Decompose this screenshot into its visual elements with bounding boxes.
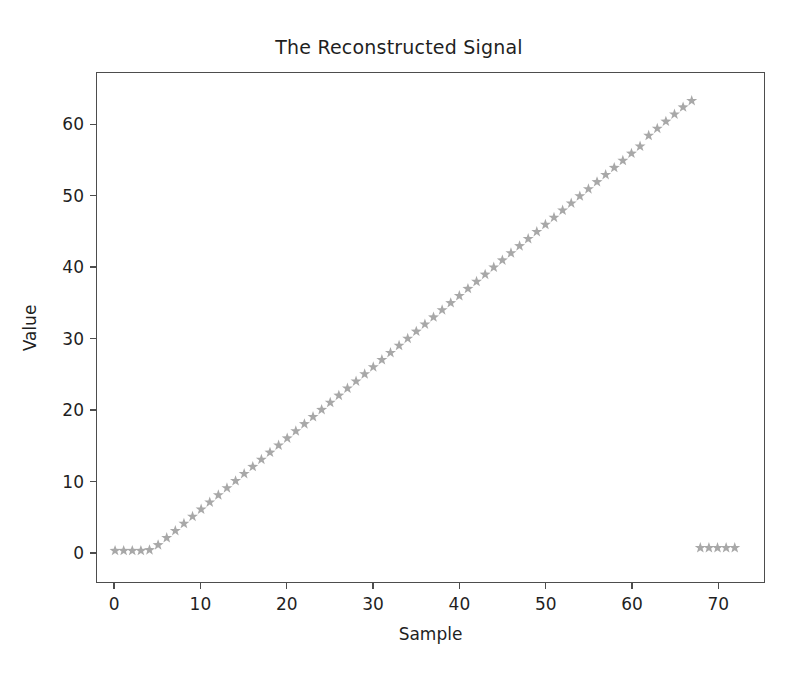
data-point-marker bbox=[462, 283, 473, 293]
data-point-marker bbox=[394, 340, 405, 350]
data-point-marker bbox=[445, 297, 456, 307]
data-point-marker bbox=[505, 247, 516, 257]
data-point-marker bbox=[290, 425, 301, 435]
data-point-marker bbox=[437, 304, 448, 314]
data-point-marker bbox=[600, 169, 611, 179]
data-point-marker bbox=[497, 254, 508, 264]
y-tick-label: 60 bbox=[32, 114, 84, 134]
data-point-marker bbox=[566, 198, 577, 208]
data-point-marker bbox=[669, 109, 680, 119]
data-point-marker bbox=[729, 542, 740, 552]
x-tick-mark bbox=[372, 583, 373, 589]
data-point-marker bbox=[325, 397, 336, 407]
y-tick-mark bbox=[90, 552, 96, 553]
plot-area bbox=[96, 72, 765, 583]
x-tick-label: 30 bbox=[362, 594, 384, 614]
y-tick-label: 0 bbox=[32, 543, 84, 563]
y-tick-mark bbox=[90, 338, 96, 339]
data-point-marker bbox=[351, 375, 362, 385]
y-axis-label: Value bbox=[20, 305, 40, 352]
data-marker-layer bbox=[110, 95, 741, 555]
data-point-marker bbox=[531, 226, 542, 236]
x-tick-label: 20 bbox=[276, 594, 298, 614]
y-tick-label: 50 bbox=[32, 186, 84, 206]
data-point-marker bbox=[686, 95, 697, 105]
figure-canvas: The Reconstructed Signal 010203040506070… bbox=[0, 0, 798, 675]
data-point-marker bbox=[359, 368, 370, 378]
data-point-marker bbox=[299, 418, 310, 428]
data-point-marker bbox=[239, 468, 250, 478]
data-point-marker bbox=[471, 276, 482, 286]
data-point-marker bbox=[480, 269, 491, 279]
data-point-marker bbox=[583, 183, 594, 193]
data-point-marker bbox=[557, 205, 568, 215]
data-point-marker bbox=[230, 475, 241, 485]
data-point-marker bbox=[411, 326, 422, 336]
data-point-marker bbox=[695, 542, 706, 552]
data-point-marker bbox=[428, 311, 439, 321]
data-point-marker bbox=[643, 130, 654, 140]
data-point-marker bbox=[385, 347, 396, 357]
data-point-marker bbox=[540, 219, 551, 229]
x-tick-mark bbox=[200, 583, 201, 589]
data-point-marker bbox=[118, 545, 129, 555]
data-point-marker bbox=[127, 545, 138, 555]
x-tick-mark bbox=[545, 583, 546, 589]
data-point-marker bbox=[376, 354, 387, 364]
data-point-marker bbox=[170, 525, 181, 535]
data-point-marker bbox=[488, 262, 499, 272]
data-point-marker bbox=[264, 447, 275, 457]
data-point-marker bbox=[454, 290, 465, 300]
scatter-plot-canvas bbox=[97, 73, 764, 582]
x-tick-label: 10 bbox=[190, 594, 212, 614]
data-point-marker bbox=[161, 532, 172, 542]
x-tick-mark bbox=[631, 583, 632, 589]
data-point-marker bbox=[574, 190, 585, 200]
data-point-marker bbox=[110, 545, 121, 555]
x-tick-label: 0 bbox=[109, 594, 120, 614]
data-point-marker bbox=[153, 539, 164, 549]
data-point-marker bbox=[316, 404, 327, 414]
x-tick-mark bbox=[718, 583, 719, 589]
data-point-marker bbox=[617, 155, 628, 165]
y-tick-mark bbox=[90, 481, 96, 482]
data-point-marker bbox=[419, 319, 430, 329]
data-point-marker bbox=[256, 454, 267, 464]
y-tick-label: 10 bbox=[32, 472, 84, 492]
data-point-marker bbox=[221, 482, 232, 492]
data-point-marker bbox=[514, 240, 525, 250]
data-point-marker bbox=[609, 162, 620, 172]
data-point-marker bbox=[135, 545, 146, 555]
data-point-marker bbox=[652, 123, 663, 133]
x-tick-label: 60 bbox=[621, 594, 643, 614]
x-tick-mark bbox=[113, 583, 114, 589]
chart-title: The Reconstructed Signal bbox=[0, 36, 798, 58]
x-tick-mark bbox=[286, 583, 287, 589]
data-point-marker bbox=[660, 116, 671, 126]
data-point-marker bbox=[342, 383, 353, 393]
x-tick-label: 50 bbox=[535, 594, 557, 614]
x-axis-label: Sample bbox=[96, 624, 765, 644]
x-tick-mark bbox=[459, 583, 460, 589]
data-point-marker bbox=[187, 511, 198, 521]
data-point-marker bbox=[626, 148, 637, 158]
x-tick-label: 40 bbox=[449, 594, 471, 614]
data-point-marker bbox=[368, 361, 379, 371]
y-tick-mark bbox=[90, 195, 96, 196]
data-point-marker bbox=[402, 333, 413, 343]
data-point-marker bbox=[282, 432, 293, 442]
data-point-marker bbox=[712, 542, 723, 552]
data-point-marker bbox=[523, 233, 534, 243]
y-tick-mark bbox=[90, 409, 96, 410]
y-tick-mark bbox=[90, 124, 96, 125]
x-tick-label: 70 bbox=[708, 594, 730, 614]
data-point-marker bbox=[333, 390, 344, 400]
data-point-marker bbox=[196, 504, 207, 514]
data-point-marker bbox=[204, 496, 215, 506]
data-point-marker bbox=[592, 176, 603, 186]
data-point-marker bbox=[703, 542, 714, 552]
y-tick-label: 40 bbox=[32, 257, 84, 277]
data-point-marker bbox=[273, 440, 284, 450]
data-point-marker bbox=[144, 544, 155, 554]
data-point-marker bbox=[721, 542, 732, 552]
